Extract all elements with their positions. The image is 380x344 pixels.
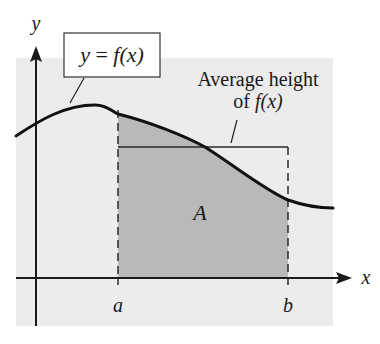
x-axis-label: x <box>361 266 371 288</box>
average-height-of: of <box>233 90 255 112</box>
average-height-label-line1: Average height <box>197 68 319 91</box>
y-axis-label: y <box>30 12 41 35</box>
average-height-label-line2: of f(x) <box>233 90 283 113</box>
curve-label-lhs: y <box>78 42 90 67</box>
average-height-arg: (x) <box>261 90 284 113</box>
tick-label-b: b <box>283 294 293 316</box>
curve-label: y = f(x) <box>78 42 144 67</box>
tick-label-a: a <box>113 294 123 316</box>
region-label-a: A <box>191 200 207 225</box>
average-value-diagram: y = f(x) Average height of f(x) A y x a … <box>0 0 380 344</box>
curve-label-eq: = <box>90 42 113 67</box>
curve-label-arg: (x) <box>119 42 143 67</box>
